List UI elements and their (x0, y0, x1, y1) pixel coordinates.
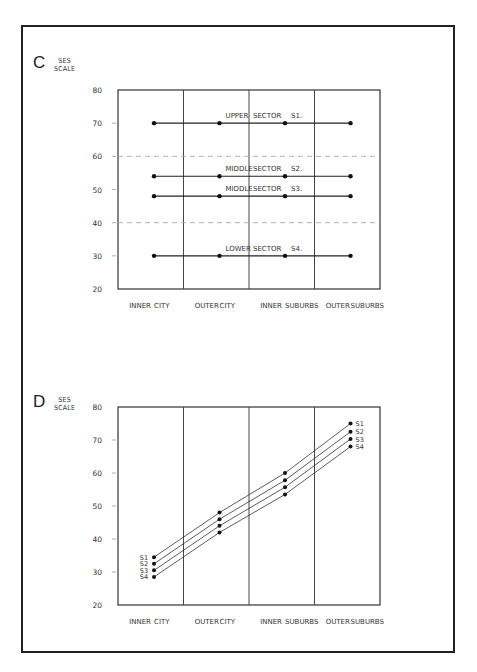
chart-d-ses-by-zone-gradient: 20304050607080INNERCITYOUTERCITYINNERSUB… (0, 0, 477, 672)
data-point (152, 568, 156, 572)
x-category-label: OUTER (326, 618, 350, 626)
x-category-label: INNER (260, 618, 282, 626)
y-tick-label: 60 (92, 469, 102, 478)
series-label-left: S4 (140, 573, 148, 581)
data-point (283, 478, 287, 482)
data-point (349, 445, 353, 449)
data-point (218, 511, 222, 515)
series-label-right: S4 (356, 443, 364, 451)
data-point (218, 517, 222, 521)
y-tick-label: 50 (92, 502, 102, 511)
series-label-right: S1 (356, 420, 364, 428)
x-category-label: OUTER (195, 618, 219, 626)
x-category-label: SUBURBS (285, 618, 319, 626)
data-point (349, 437, 353, 441)
data-point (152, 562, 156, 566)
x-category-label: INNER (129, 618, 151, 626)
y-tick-label: 30 (92, 568, 102, 577)
x-category-label: CITY (154, 618, 170, 626)
x-category-label: CITY (220, 618, 236, 626)
y-tick-label: 70 (92, 436, 102, 445)
data-point (283, 492, 287, 496)
data-point (349, 430, 353, 434)
data-point (283, 485, 287, 489)
data-point (218, 530, 222, 534)
y-tick-label: 40 (92, 535, 102, 544)
data-point (349, 422, 353, 426)
y-tick-label: 20 (92, 601, 102, 610)
data-point (152, 555, 156, 559)
x-category-label: SUBURBS (351, 618, 385, 626)
data-point (152, 575, 156, 579)
y-tick-label: 80 (92, 403, 102, 412)
data-point (218, 524, 222, 528)
data-point (283, 471, 287, 475)
